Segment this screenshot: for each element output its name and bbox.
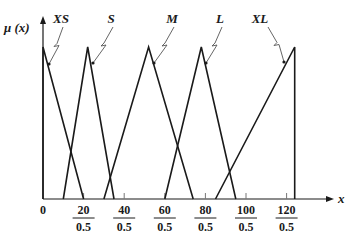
mf-m (104, 47, 193, 199)
y-axis-label: μ (x) (3, 20, 30, 35)
leader-arrow-icon (152, 61, 155, 64)
x-axis-label: x (337, 191, 345, 206)
leader-line (49, 27, 63, 64)
set-label-s: S (107, 11, 114, 26)
y-axis-arrow-icon (40, 16, 46, 24)
tick-label-denominator: 0.5 (157, 220, 172, 234)
membership-function-chart: μ (x) x 0200.5400.5600.5800.51000.51200.… (0, 0, 353, 240)
leader-arrow-icon (282, 60, 285, 63)
tick-label-numerator: 100 (237, 203, 255, 217)
tick-label-numerator: 20 (78, 203, 90, 217)
tick-label-origin: 0 (40, 203, 46, 217)
leader-arrow-icon (91, 61, 94, 64)
tick-label-numerator: 80 (199, 203, 211, 217)
tick-label-numerator: 60 (159, 203, 171, 217)
leader-line (206, 27, 222, 63)
tick-label-denominator: 0.5 (76, 220, 91, 234)
leader-arrow-icon (204, 61, 207, 64)
membership-functions (43, 47, 295, 199)
set-label-xs: XS (52, 11, 69, 26)
tick-label-numerator: 40 (118, 203, 130, 217)
set-labels: XSSMLXL (47, 11, 285, 66)
mf-xs (43, 47, 84, 199)
x-axis-arrow-icon (326, 196, 334, 202)
leader-line (154, 27, 174, 63)
set-label-l: L (215, 11, 224, 26)
tick-label-denominator: 0.5 (117, 220, 132, 234)
tick-label-numerator: 120 (278, 203, 296, 217)
mf-s (63, 47, 114, 199)
tick-label-denominator: 0.5 (198, 220, 213, 234)
mf-xl (216, 47, 295, 199)
tick-label-denominator: 0.5 (279, 220, 294, 234)
leader-line (268, 27, 284, 62)
tick-label-denominator: 0.5 (239, 220, 254, 234)
set-label-m: M (165, 11, 178, 26)
mf-l (165, 47, 236, 199)
set-label-xl: XL (251, 11, 269, 26)
leader-arrow-icon (47, 62, 50, 65)
leader-line (93, 27, 113, 63)
